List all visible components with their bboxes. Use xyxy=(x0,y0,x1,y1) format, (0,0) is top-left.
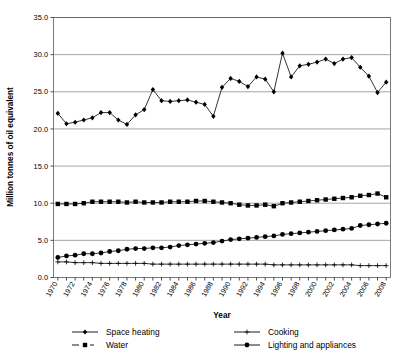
legend-marker xyxy=(83,343,87,347)
legend-item-space-heating[interactable]: Space heating xyxy=(72,327,160,337)
data-point xyxy=(280,201,284,205)
data-point xyxy=(237,203,241,207)
xtick-label: 1996 xyxy=(268,280,284,298)
data-point xyxy=(125,247,130,252)
data-point xyxy=(323,228,328,233)
data-point xyxy=(289,231,294,236)
data-point xyxy=(90,251,95,256)
data-point xyxy=(237,236,242,241)
xtick-label: 2002 xyxy=(320,280,336,298)
data-point xyxy=(254,203,258,207)
ytick-label: 10.0 xyxy=(34,199,48,208)
x-axis: 1970197219741976197819801982198419861988… xyxy=(44,278,388,299)
data-point xyxy=(358,223,363,228)
xtick-label: 1988 xyxy=(199,280,215,298)
xtick-label: 2004 xyxy=(338,280,354,298)
data-point xyxy=(64,254,69,259)
data-point xyxy=(263,203,267,207)
data-point xyxy=(375,191,379,195)
data-point xyxy=(323,57,327,62)
data-point xyxy=(142,200,146,204)
data-point xyxy=(271,234,276,239)
data-point xyxy=(133,200,137,204)
ytick-label: 20.0 xyxy=(34,125,48,134)
data-point xyxy=(133,246,138,251)
data-point xyxy=(194,100,198,105)
data-point xyxy=(99,200,103,204)
xtick-label: 2008 xyxy=(372,280,388,298)
data-point xyxy=(168,99,172,104)
data-point xyxy=(237,79,241,84)
data-point xyxy=(263,234,268,239)
xtick-label: 1994 xyxy=(251,280,267,298)
ytick-label: 15.0 xyxy=(34,162,48,171)
data-point xyxy=(341,196,345,200)
data-point xyxy=(150,245,155,250)
xtick-label: 1974 xyxy=(78,280,94,298)
data-point xyxy=(107,249,112,254)
data-point xyxy=(107,200,111,204)
x-axis-title: Year xyxy=(213,311,231,320)
xtick-label: 1990 xyxy=(217,280,233,298)
line-chart: 0.05.010.015.020.025.030.035.01970197219… xyxy=(0,0,411,356)
ytick-label: 25.0 xyxy=(34,87,48,96)
data-point xyxy=(159,245,164,250)
legend: Space heatingCookingWaterLighting and ap… xyxy=(72,327,356,350)
ytick-label: 0.0 xyxy=(38,273,48,282)
xtick-label: 1970 xyxy=(44,280,60,298)
data-point xyxy=(306,199,310,203)
data-point xyxy=(194,242,199,247)
data-point xyxy=(246,203,250,207)
data-point xyxy=(99,251,104,256)
data-point xyxy=(90,115,94,120)
xtick-label: 1976 xyxy=(96,280,112,298)
data-point xyxy=(64,202,68,206)
data-point xyxy=(306,230,311,235)
data-point xyxy=(203,199,207,203)
data-point xyxy=(168,245,173,250)
data-point xyxy=(246,236,251,241)
data-point xyxy=(254,235,259,240)
data-point xyxy=(151,200,155,204)
data-point xyxy=(194,199,198,203)
data-point xyxy=(315,59,319,64)
data-point xyxy=(211,200,215,204)
xtick-label: 1998 xyxy=(286,280,302,298)
data-point xyxy=(185,97,189,102)
data-point xyxy=(81,251,86,256)
data-point xyxy=(90,200,94,204)
xtick-label: 1972 xyxy=(61,280,77,298)
data-point xyxy=(177,98,181,103)
xtick-label: 2000 xyxy=(303,280,319,298)
data-point xyxy=(341,57,345,62)
data-point xyxy=(116,200,120,204)
data-point xyxy=(297,231,302,236)
series-cooking xyxy=(55,260,388,269)
data-point xyxy=(73,253,78,258)
data-point xyxy=(177,200,181,204)
legend-item-water[interactable]: Water xyxy=(72,340,128,350)
data-point xyxy=(367,193,371,197)
data-point xyxy=(375,222,380,227)
data-point xyxy=(366,222,371,227)
data-point xyxy=(323,197,327,201)
ytick-label: 5.0 xyxy=(38,236,48,245)
legend-marker xyxy=(245,343,250,348)
xtick-label: 1992 xyxy=(234,280,250,298)
xtick-label: 1986 xyxy=(182,280,198,298)
data-point xyxy=(82,117,86,122)
data-point xyxy=(55,255,60,260)
data-point xyxy=(228,237,233,242)
data-point xyxy=(306,62,310,67)
data-point xyxy=(272,204,276,208)
data-point xyxy=(220,200,224,204)
legend-item-cooking[interactable]: Cooking xyxy=(234,327,299,337)
legend-item-lighting-and-appliances[interactable]: Lighting and appliances xyxy=(234,340,356,350)
data-point xyxy=(168,200,172,204)
plot-frame xyxy=(54,18,391,278)
data-point xyxy=(73,202,77,206)
series-water xyxy=(56,191,389,208)
data-point xyxy=(176,243,181,248)
ytick-label: 35.0 xyxy=(34,13,48,22)
data-point xyxy=(73,120,77,125)
